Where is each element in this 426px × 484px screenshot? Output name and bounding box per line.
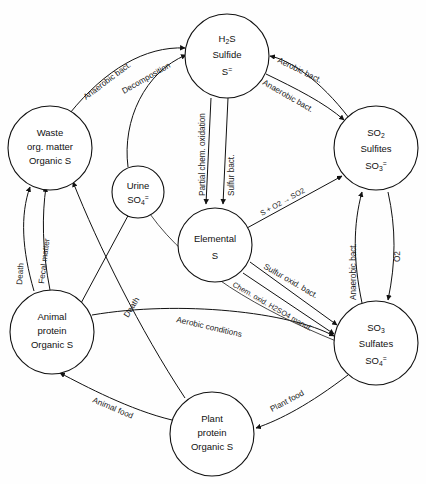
label-anaerobic-bact-top: Anaerobic bact. [261, 78, 315, 114]
urine-line1: Urine [127, 180, 150, 191]
sulfur-cycle-diagram: H2S Sulfide S= Waste org. matter Organic… [0, 0, 426, 484]
label-plant-food: Plant food [269, 388, 306, 413]
urine-circle [112, 166, 164, 218]
node-so3: SO3 Sulfates SO4= [334, 301, 418, 385]
h2s-name: Sulfide [212, 49, 241, 60]
label-aerobic-bact-top: Aerobic bact. [276, 56, 323, 85]
label-s-plus-o2-so2: S + O2 → SO2 [259, 186, 307, 218]
edge-so3-to-plant [256, 375, 348, 428]
elemental-circle [178, 208, 252, 282]
node-urine: Urine SO4= [112, 166, 164, 218]
animal-line1: Animal [37, 311, 66, 322]
animal-line2: protein [37, 325, 66, 336]
edge-waste-to-h2s [70, 48, 185, 113]
label-partial-chem-oxidation: Partial chem. oxidation [198, 113, 207, 196]
waste-line2: org. matter [27, 141, 73, 152]
label-sulfur-oxid-bact: Sulfur oxid. bact. [262, 262, 319, 300]
edge-so2-to-so3 [388, 192, 394, 300]
elemental-line2: S [212, 250, 218, 261]
label-anaerobic-bact-right: Anaerobic bact. [349, 243, 358, 300]
plant-line1: Plant [201, 413, 223, 424]
waste-line1: Waste [37, 127, 64, 138]
edge-elemental-to-so2 [247, 176, 342, 228]
label-fecal-matter: Fecal matter [37, 238, 52, 285]
node-elemental: Elemental S [178, 208, 252, 282]
node-animal: Animal protein Organic S [10, 290, 94, 374]
label-sulfur-bact: Sulfur bact. [227, 155, 236, 196]
node-waste: Waste org. matter Organic S [8, 106, 92, 190]
plant-line3: Organic S [191, 441, 233, 452]
node-plant: Plant protein Organic S [170, 392, 254, 476]
plant-line2: protein [197, 427, 226, 438]
animal-line3: Organic S [31, 339, 73, 350]
node-so2: SO2 Sulfites SO3= [334, 106, 418, 190]
label-death-left: Death [15, 262, 26, 285]
node-h2s: H2S Sulfide S= [185, 14, 269, 98]
label-o2-right: O2 [393, 251, 402, 262]
label-aerobic-conditions: Aerobic conditions [176, 315, 243, 339]
edge-h2s-to-so2 [266, 74, 344, 120]
elemental-line1: Elemental [194, 233, 236, 244]
waste-line3: Organic S [29, 155, 71, 166]
edge-animal-to-waste-death [24, 187, 34, 291]
label-death-middle: Death [122, 295, 141, 319]
so3-name: Sulfates [359, 338, 394, 349]
so2-name: Sulfites [360, 143, 391, 154]
